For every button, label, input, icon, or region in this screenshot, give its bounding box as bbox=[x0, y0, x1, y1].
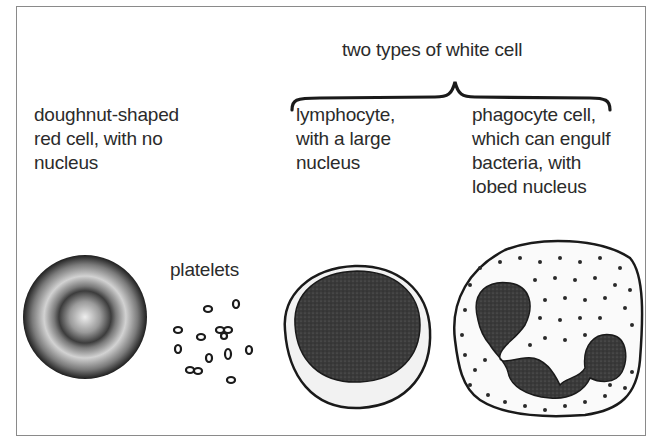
cell-illustrations bbox=[0, 0, 663, 448]
red-blood-cell-icon bbox=[23, 255, 147, 379]
platelets-icon bbox=[174, 300, 252, 383]
phagocyte-icon bbox=[454, 241, 642, 416]
lymphocyte-icon bbox=[285, 266, 430, 408]
